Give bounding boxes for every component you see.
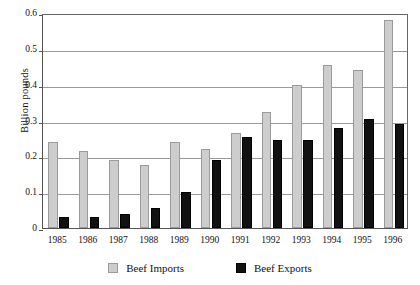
y-axis-tick-mark bbox=[39, 230, 43, 231]
bar-beef-exports-1991 bbox=[242, 137, 252, 228]
bar-beef-imports-1995 bbox=[353, 70, 363, 228]
legend-entry-exports: Beef Exports bbox=[236, 262, 312, 274]
bar-beef-exports-1993 bbox=[303, 140, 313, 228]
y-axis-tick-mark bbox=[39, 123, 43, 124]
bar-beef-imports-1987 bbox=[109, 160, 119, 228]
legend-swatch-exports bbox=[236, 263, 246, 273]
y-axis-tick-mark bbox=[39, 194, 43, 195]
bar-beef-imports-1992 bbox=[262, 112, 272, 228]
bar-beef-exports-1986 bbox=[90, 217, 100, 228]
bar-beef-imports-1990 bbox=[201, 149, 211, 228]
y-axis-tick-label: 0.4 bbox=[3, 81, 37, 91]
bar-beef-exports-1988 bbox=[151, 208, 161, 228]
y-axis-tick-mark bbox=[39, 15, 43, 16]
bar-beef-exports-1987 bbox=[120, 214, 130, 228]
bar-beef-exports-1989 bbox=[181, 192, 191, 228]
y-axis-tick-label: 0.3 bbox=[3, 117, 37, 127]
y-axis-tick-mark bbox=[39, 87, 43, 88]
bar-beef-imports-1986 bbox=[79, 151, 89, 228]
y-axis-tick-label: 0.6 bbox=[3, 9, 37, 19]
bar-beef-exports-1996 bbox=[395, 124, 405, 228]
legend-entry-imports: Beef Imports bbox=[108, 262, 184, 274]
y-axis-tick-mark bbox=[39, 51, 43, 52]
y-axis-tick-label: 0.1 bbox=[3, 188, 37, 198]
y-axis-tick-label: 0 bbox=[3, 224, 37, 234]
bar-beef-exports-1994 bbox=[334, 128, 344, 228]
plot-area bbox=[42, 14, 408, 229]
y-axis-tick-label: 0.2 bbox=[3, 152, 37, 162]
bar-beef-exports-1995 bbox=[364, 119, 374, 228]
bar-beef-exports-1992 bbox=[273, 140, 283, 228]
legend-swatch-imports bbox=[108, 263, 118, 273]
bar-beef-imports-1991 bbox=[231, 133, 241, 228]
bar-beef-imports-1985 bbox=[48, 142, 58, 228]
legend-label-exports: Beef Exports bbox=[254, 262, 312, 274]
bar-beef-exports-1990 bbox=[212, 160, 222, 228]
x-axis-tick-label-1996: 1996 bbox=[375, 236, 411, 246]
bar-beef-imports-1988 bbox=[140, 165, 150, 228]
y-axis-title: Billion pounds bbox=[19, 41, 30, 161]
chart-legend: Beef ImportsBeef Exports bbox=[0, 262, 420, 274]
legend-label-imports: Beef Imports bbox=[126, 262, 184, 274]
bar-beef-imports-1989 bbox=[170, 142, 180, 228]
y-axis-tick-mark bbox=[39, 158, 43, 159]
bar-beef-imports-1996 bbox=[384, 20, 394, 228]
bar-beef-imports-1994 bbox=[323, 65, 333, 228]
gridline bbox=[43, 51, 407, 52]
bar-chart: Billion pounds 0.60.50.40.30.20.10 19851… bbox=[0, 0, 420, 285]
y-axis-tick-label: 0.5 bbox=[3, 45, 37, 55]
bar-beef-imports-1993 bbox=[292, 85, 302, 228]
bar-beef-exports-1985 bbox=[59, 217, 69, 228]
